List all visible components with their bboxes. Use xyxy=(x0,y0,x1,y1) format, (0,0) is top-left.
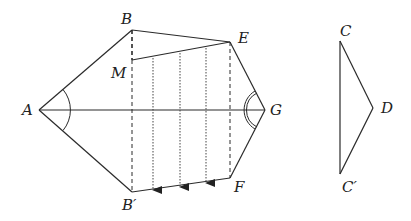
point-labels: A B M E G F B′ C D C′ xyxy=(20,10,393,214)
geometry-diagram: A B M E G F B′ C D C′ xyxy=(0,0,411,221)
segment-EG xyxy=(230,42,265,110)
hexagon-outline xyxy=(39,30,265,192)
label-B: B xyxy=(120,10,132,28)
segment-DC-prime xyxy=(340,108,373,174)
label-C-prime: C′ xyxy=(342,178,357,196)
segment-FB-prime xyxy=(132,178,230,192)
label-A: A xyxy=(20,101,33,119)
label-F: F xyxy=(233,178,245,196)
label-C: C xyxy=(340,22,352,40)
label-M: M xyxy=(110,64,127,82)
label-G: G xyxy=(270,101,282,119)
triangle-CDC-prime xyxy=(340,41,373,174)
segment-GF xyxy=(230,110,265,178)
translation-arrows xyxy=(153,48,206,190)
segment-BE xyxy=(132,30,230,42)
label-B-prime: B′ xyxy=(121,196,137,214)
segment-B-prime-A xyxy=(39,110,132,192)
segment-CD xyxy=(340,41,373,108)
label-D: D xyxy=(380,99,393,117)
segment-ME xyxy=(132,42,230,60)
dashed-lines xyxy=(132,30,230,192)
label-E: E xyxy=(237,29,249,47)
